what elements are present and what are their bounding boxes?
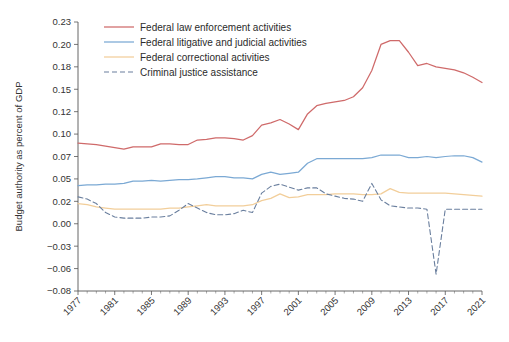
y-axis-title: Budget authority as percent of GDP [13, 82, 24, 232]
y-tick-label: 0.05 [53, 173, 72, 184]
y-tick-label: 0.15 [53, 84, 72, 95]
y-tick-label: −0.08 [47, 285, 71, 296]
legend-label-2: Federal correctional activities [140, 52, 270, 63]
y-tick-label: 0.07 [53, 151, 72, 162]
budget-authority-line-chart: 0.230.200.180.150.120.100.070.050.020.00… [0, 0, 509, 342]
y-tick-label: 0.20 [53, 39, 72, 50]
y-tick-label: −0.06 [47, 263, 71, 274]
legend-label-3: Criminal justice assistance [140, 67, 258, 78]
y-tick-label: 0.00 [53, 218, 72, 229]
legend-label-0: Federal law enforcement activities [140, 22, 291, 33]
y-tick-label: −0.03 [47, 241, 71, 252]
legend-label-1: Federal litigative and judicial activiti… [140, 37, 307, 48]
y-tick-label: 0.02 [53, 196, 72, 207]
y-tick-label: 0.18 [53, 61, 72, 72]
y-tick-label: 0.23 [53, 16, 72, 27]
y-tick-label: 0.12 [53, 106, 72, 117]
y-tick-label: 0.10 [53, 128, 72, 139]
